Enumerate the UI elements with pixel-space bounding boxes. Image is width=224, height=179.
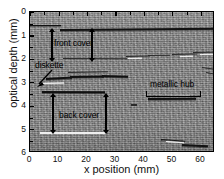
x-tick-60 [201,12,202,16]
y-tick-4 [30,106,34,107]
x-tick-15 [73,12,74,15]
y-tick-label-1: 1 [16,30,26,40]
x-tick-25 [101,12,102,15]
y-tick-5 [30,129,34,130]
back-cover-left-arrowhead-down [50,130,56,134]
x-tick-35 [130,12,131,15]
x-tick-5 [44,12,45,15]
front-cover-right-arrowhead-down [89,58,95,62]
y-tick-label-6: 6 [16,147,26,157]
y-tick-3-5 [30,94,33,95]
back-cover-left-arrowhead-up [50,93,56,97]
annotation-front-cover-label: front cover [54,38,93,48]
annotation-diskette-label: diskette [35,60,64,70]
x-tick-10 [59,12,60,16]
back-cover-left-arrow-shaft [52,96,54,130]
front-cover-left-arrowhead-up [49,28,55,32]
front-cover-left-arrow-shaft [51,31,53,59]
y-tick-label-4: 4 [16,100,26,110]
y-tick-3 [30,82,34,83]
y-tick-4-5 [30,118,33,119]
x-tick-20 [87,12,88,16]
x-axis-label: x position (mm) [29,163,214,175]
front-cover-right-arrowhead-up [89,28,95,32]
depth-attenuation-shading [30,125,213,151]
y-tick-1 [30,35,34,36]
x-tick-40 [144,12,145,16]
y-tick-label-0: 0 [16,6,26,16]
back-cover-right-arrowhead-up [103,93,109,97]
annotation-back-cover-label: back cover [59,110,99,120]
back-cover-right-arrow-shaft [105,96,107,130]
y-tick-0 [30,12,34,13]
x-tick-50 [172,12,173,16]
back-cover-right-arrowhead-down [103,130,109,134]
x-tick-45 [158,12,159,15]
metallic-hub-bracket [146,91,201,97]
y-tick-1-5 [30,47,33,48]
y-tick-2-5 [30,71,33,72]
y-tick-label-2: 2 [16,53,26,63]
oct-bscan-image: front cover diskette back cover metallic… [29,11,214,152]
y-tick-0-5 [30,24,33,25]
y-tick-label-3: 3 [16,77,26,87]
x-tick-30 [115,12,116,16]
annotation-metallic-hub-label: metallic hub [150,79,194,89]
y-tick-label-5: 5 [16,124,26,134]
x-tick-55 [187,12,188,15]
y-tick-5-5 [30,141,33,142]
oct-figure: optical depth (mm) 0 1 2 3 4 5 6 0 10 20… [0,0,224,179]
y-tick-2 [30,59,34,60]
